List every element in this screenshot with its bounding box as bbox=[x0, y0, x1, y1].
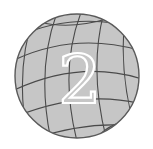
globe-icon: 2 bbox=[0, 0, 153, 149]
globe-number-badge: 2 bbox=[0, 0, 153, 149]
badge-numeral: 2 bbox=[58, 40, 101, 119]
